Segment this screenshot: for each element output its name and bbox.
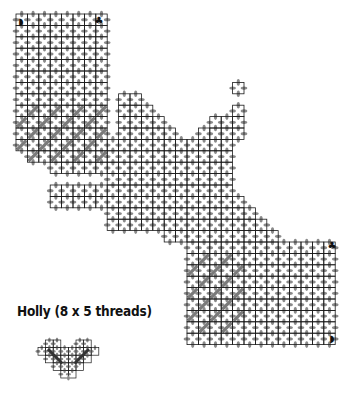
holly-motif xyxy=(35,337,98,380)
club-marker-top-right: ♣ xyxy=(95,15,104,26)
half-circle-marker-bottom-right: ◗ xyxy=(329,333,334,344)
needlepoint-chart: ◗♣♣◗ xyxy=(0,0,352,404)
half-circle-marker-top-left: ◗ xyxy=(18,16,23,27)
grid-layer xyxy=(16,14,335,345)
holly-caption: Holly (8 x 5 threads) xyxy=(17,303,152,319)
club-marker-bottom-right: ♣ xyxy=(328,240,337,251)
